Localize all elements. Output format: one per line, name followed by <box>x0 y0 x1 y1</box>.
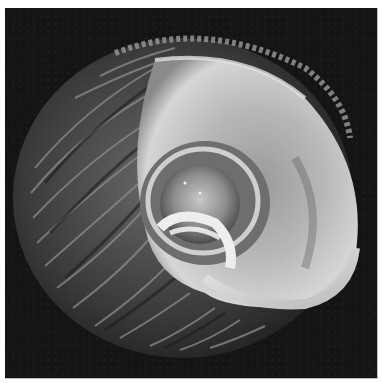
shell-photo <box>5 8 377 378</box>
photo-frame <box>5 8 378 379</box>
